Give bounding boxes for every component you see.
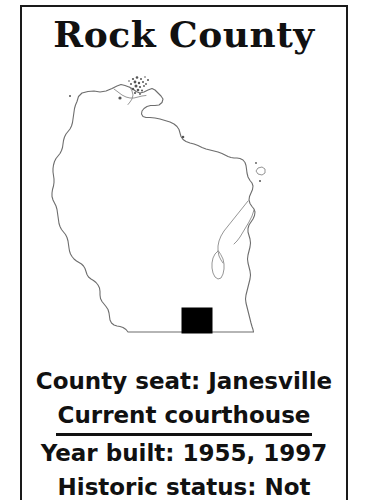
county-info-card: Rock County	[0, 0, 366, 500]
historic-status-label: Historic status: Not	[24, 470, 344, 500]
page-title: Rock County	[22, 12, 346, 56]
wisconsin-outline-path	[52, 85, 255, 333]
coastal-marker-mid	[182, 136, 185, 139]
year-built-row: Year built: 1955, 1997	[24, 436, 344, 470]
wisconsin-state-map	[22, 60, 346, 360]
year-built-label: Year built: 1955, 1997	[24, 436, 344, 470]
highlighted-county-rock	[182, 308, 212, 333]
county-info-text: County seat: Janesville Current courthou…	[24, 364, 344, 500]
state-map-svg	[22, 60, 346, 360]
rock-island-dot	[259, 180, 261, 182]
coastal-marker-northwest	[69, 95, 71, 97]
section-heading-row: Current courthouse	[24, 398, 344, 436]
island-dot-small	[255, 162, 257, 164]
historic-status-row: Historic status: Not	[24, 470, 344, 500]
county-seat-label: County seat: Janesville	[24, 364, 344, 398]
washington-island	[256, 167, 265, 175]
county-seat-row: County seat: Janesville	[24, 364, 344, 398]
coastal-marker-north	[118, 96, 121, 99]
current-courthouse-heading: Current courthouse	[56, 398, 313, 436]
